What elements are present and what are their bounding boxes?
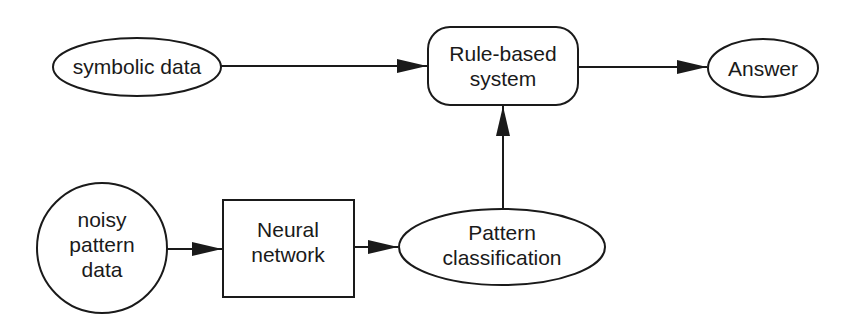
hybrid-system-diagram: symbolic data Rule-based system Answer n…	[0, 0, 852, 326]
node-noisy-pattern-data: noisy pattern data	[37, 183, 167, 313]
pattern-label-line2: classification	[442, 246, 561, 269]
node-answer: Answer	[708, 39, 818, 97]
noisy-label-line3: data	[82, 258, 123, 281]
neural-label-line2: network	[251, 243, 325, 266]
rule-based-label-line2: system	[470, 67, 537, 90]
answer-label: Answer	[728, 57, 798, 80]
noisy-label-line1: noisy	[77, 208, 127, 231]
neural-label-line1: Neural	[257, 218, 319, 241]
node-symbolic-data: symbolic data	[53, 38, 221, 96]
node-neural-network: Neural network	[223, 200, 354, 297]
node-pattern-classification: Pattern classification	[399, 209, 605, 285]
symbolic-data-label: symbolic data	[73, 55, 202, 78]
pattern-label-line1: Pattern	[468, 221, 536, 244]
noisy-label-line2: pattern	[69, 233, 134, 256]
node-rule-based-system: Rule-based system	[428, 27, 578, 105]
rule-based-label-line1: Rule-based	[449, 42, 556, 65]
